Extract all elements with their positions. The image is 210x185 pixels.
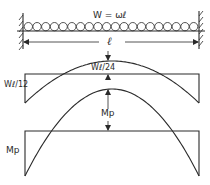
beam-diagram: W = ωℓ ℓ Wℓ/24 Wℓ/12 Mp Mp bbox=[0, 0, 210, 185]
plastic-midspan-moment-label: Mp bbox=[101, 109, 114, 118]
plastic-end-moment-label: Mp bbox=[6, 146, 19, 155]
distributed-load-circles bbox=[24, 23, 198, 31]
plastic-moment-parabola bbox=[25, 89, 199, 176]
load-label: W = ωℓ bbox=[93, 11, 126, 20]
elastic-midspan-moment-label: Wℓ/24 bbox=[90, 64, 116, 72]
fixed-support-right bbox=[199, 11, 203, 49]
elastic-end-moment-label: Wℓ/12 bbox=[4, 81, 28, 89]
diagram-drawing bbox=[0, 0, 210, 185]
elastic-moment-diagram bbox=[25, 51, 199, 103]
plastic-moment-diagram bbox=[25, 89, 199, 176]
plastic-baseline-rect bbox=[25, 131, 199, 176]
span-label: ℓ bbox=[107, 36, 112, 47]
